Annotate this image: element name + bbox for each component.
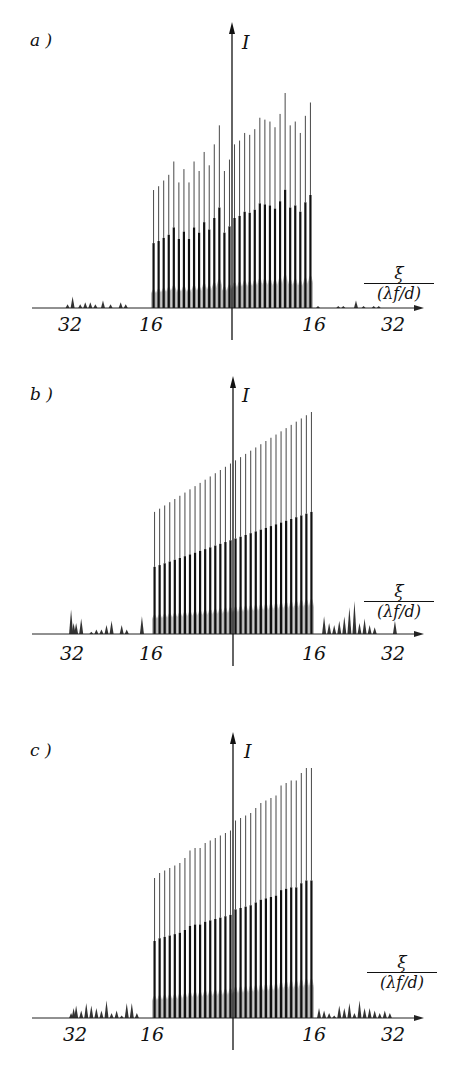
panel-label-c: c ) [30,740,52,760]
panel-c: c ) I ξ (λf/d) 32 16 16 32 [0,700,463,1070]
x-axis-label-denominator: (λf/d) [367,973,437,993]
tick-label: 16 [302,642,326,664]
chart-c-plot [0,700,463,1070]
tick-label: 32 [58,313,82,335]
y-axis-label-a: I [242,31,250,53]
panel-label-b: b ) [30,384,53,404]
y-axis-label-b: I [242,384,250,406]
y-axis-label-c: I [244,740,252,762]
panel-label-a: a ) [30,30,52,50]
x-axis-label-a: ξ (λf/d) [364,264,434,304]
tick-label: 16 [139,642,163,664]
tick-label: 16 [139,313,163,335]
panel-b: b ) I ξ (λf/d) 32 16 16 32 [0,350,463,690]
x-axis-label-numerator: ξ [367,953,437,973]
x-axis-label-c: ξ (λf/d) [367,953,437,993]
tick-label: 32 [381,1023,405,1045]
tick-label: 32 [381,642,405,664]
tick-label: 16 [302,313,326,335]
tick-label: 32 [381,313,405,335]
chart-b-plot [0,350,463,690]
tick-label: 16 [140,1023,164,1045]
tick-label: 16 [302,1023,326,1045]
tick-label: 32 [63,1023,87,1045]
tick-label: 32 [60,642,84,664]
x-axis-label-denominator: (λf/d) [364,602,434,622]
x-axis-label-denominator: (λf/d) [364,284,434,304]
panel-a: a ) I ξ (λf/d) 32 16 16 32 [0,0,463,350]
x-axis-label-b: ξ (λf/d) [364,582,434,622]
x-axis-label-numerator: ξ [364,582,434,602]
x-axis-label-numerator: ξ [364,264,434,284]
